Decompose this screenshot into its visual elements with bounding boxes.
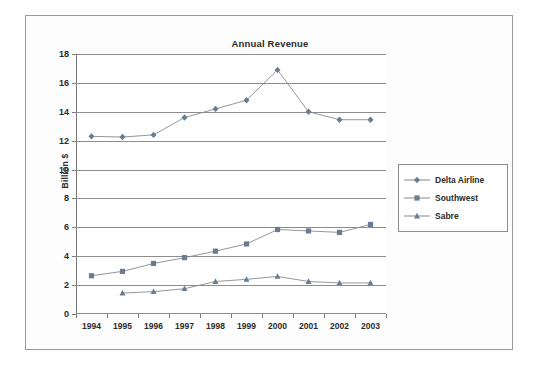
triangle-marker-icon xyxy=(414,213,420,219)
x-tick-mark xyxy=(262,314,263,318)
legend: Delta AirlineSouthwestSabre xyxy=(398,164,508,232)
triangle-marker-icon xyxy=(275,273,281,279)
x-tick-label: 1996 xyxy=(144,321,163,331)
y-tick-label: 6 xyxy=(64,222,69,232)
x-tick-label: 2000 xyxy=(268,321,287,331)
diamond-marker-icon xyxy=(89,133,95,139)
x-tick-mark xyxy=(200,314,201,318)
x-tick-label: 2002 xyxy=(330,321,349,331)
square-marker-icon xyxy=(89,273,94,278)
x-tick-label: 1994 xyxy=(82,321,101,331)
square-marker-icon xyxy=(337,230,342,235)
square-marker-icon xyxy=(120,269,125,274)
square-marker-icon xyxy=(368,222,373,227)
diamond-marker-icon xyxy=(414,177,420,183)
chart-screenshot: Annual Revenue Billion $ 024681012141618… xyxy=(0,0,539,368)
x-tick-mark xyxy=(138,314,139,318)
legend-label: Southwest xyxy=(435,193,478,203)
legend-item-southwest[interactable]: Southwest xyxy=(404,189,501,207)
figure-frame: Annual Revenue Billion $ 024681012141618… xyxy=(25,15,513,350)
x-tick-label: 1997 xyxy=(175,321,194,331)
x-tick-label: 2003 xyxy=(361,321,380,331)
x-tick-label: 1999 xyxy=(237,321,256,331)
square-marker-icon xyxy=(182,255,187,260)
legend-label: Sabre xyxy=(435,211,459,221)
legend-label: Delta Airline xyxy=(435,175,484,185)
square-marker-icon xyxy=(414,195,419,200)
diamond-marker-icon xyxy=(182,114,188,120)
square-marker-icon xyxy=(306,228,311,233)
y-tick-label: 14 xyxy=(59,107,69,117)
square-marker-icon xyxy=(151,261,156,266)
legend-swatch xyxy=(404,174,430,186)
chart-title: Annual Revenue xyxy=(26,38,514,49)
x-tick-mark xyxy=(169,314,170,318)
x-tick-label: 1998 xyxy=(206,321,225,331)
square-marker-icon xyxy=(404,192,430,204)
x-tick-mark xyxy=(355,314,356,318)
y-tick-label: 0 xyxy=(64,309,69,319)
x-tick-label: 2001 xyxy=(299,321,318,331)
x-tick-mark xyxy=(324,314,325,318)
triangle-marker-icon xyxy=(404,210,430,222)
y-tick-label: 8 xyxy=(64,193,69,203)
x-tick-mark xyxy=(386,314,387,318)
series-delta-airline xyxy=(89,67,374,141)
diamond-marker-icon xyxy=(368,117,374,123)
x-tick-mark xyxy=(293,314,294,318)
y-tick-label: 16 xyxy=(59,78,69,88)
diamond-marker-icon xyxy=(404,174,430,186)
square-marker-icon xyxy=(275,227,280,232)
x-tick-label: 1995 xyxy=(113,321,132,331)
y-tick-label: 10 xyxy=(59,165,69,175)
legend-swatch xyxy=(404,210,430,222)
square-marker-icon xyxy=(244,241,249,246)
series-southwest xyxy=(89,222,373,278)
x-tick-mark xyxy=(107,314,108,318)
square-marker-icon xyxy=(213,249,218,254)
y-tick-label: 4 xyxy=(64,251,69,261)
series-sabre xyxy=(120,273,374,295)
y-tick-label: 12 xyxy=(59,136,69,146)
x-tick-mark xyxy=(231,314,232,318)
x-tick-mark xyxy=(76,314,77,318)
legend-item-sabre[interactable]: Sabre xyxy=(404,207,501,225)
legend-item-delta-airline[interactable]: Delta Airline xyxy=(404,171,501,189)
diamond-marker-icon xyxy=(213,106,219,112)
series-line xyxy=(92,70,371,137)
diamond-marker-icon xyxy=(120,134,126,140)
series-layer xyxy=(76,54,386,314)
legend-swatch xyxy=(404,192,430,204)
y-tick-label: 18 xyxy=(59,49,69,59)
diamond-marker-icon xyxy=(151,132,157,138)
series-line xyxy=(92,224,371,275)
diamond-marker-icon xyxy=(337,117,343,123)
plot-area: 024681012141618 199419951996199719981999… xyxy=(76,54,386,314)
y-tick-label: 2 xyxy=(64,280,69,290)
